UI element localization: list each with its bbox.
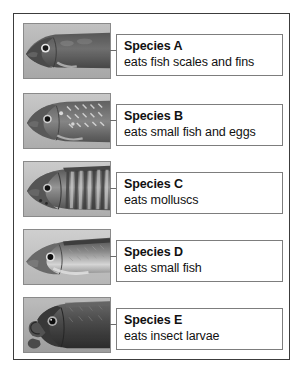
- species-diet: eats small fish: [124, 260, 282, 276]
- species-name: Species B: [124, 108, 282, 124]
- fish-image-b: [24, 94, 110, 148]
- species-label-box: Species B eats small fish and eggs: [116, 104, 283, 146]
- species-name: Species D: [124, 244, 282, 260]
- species-label-box: Species E eats insect larvae: [116, 308, 283, 350]
- species-diet: eats insect larvae: [124, 328, 282, 344]
- fish-photo-species-e: [23, 297, 111, 353]
- species-name: Species C: [124, 176, 282, 192]
- fish-image-a: [24, 24, 110, 78]
- fish-image-d: [24, 230, 110, 284]
- species-row: Species E eats insect larvae: [14, 297, 289, 353]
- species-row: Species A eats fish scales and fins: [14, 23, 289, 79]
- fish-photo-species-b: [23, 93, 111, 149]
- species-figure-frame: Species A eats fish scales and fins: [13, 13, 290, 360]
- species-row: Species D eats small fish: [14, 229, 289, 285]
- species-name: Species E: [124, 312, 282, 328]
- species-diet: eats molluscs: [124, 192, 282, 208]
- species-name: Species A: [124, 38, 282, 54]
- species-row: Species B eats small fish and eggs: [14, 93, 289, 149]
- fish-photo-species-c: [23, 161, 111, 217]
- fish-photo-species-a: [23, 23, 111, 79]
- species-label-box: Species C eats molluscs: [116, 172, 283, 214]
- species-label-box: Species D eats small fish: [116, 240, 283, 282]
- species-label-box: Species A eats fish scales and fins: [116, 34, 283, 76]
- fish-photo-species-d: [23, 229, 111, 285]
- fish-image-e: [24, 298, 110, 352]
- species-diet: eats small fish and eggs: [124, 124, 282, 140]
- species-row: Species C eats molluscs: [14, 161, 289, 217]
- fish-image-c: [24, 162, 110, 216]
- species-diet: eats fish scales and fins: [124, 54, 282, 70]
